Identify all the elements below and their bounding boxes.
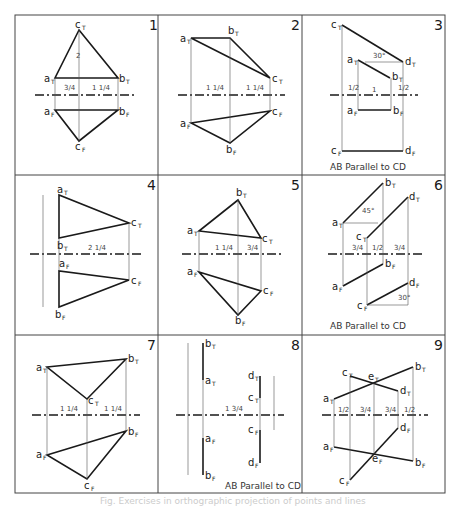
svg-text:a: a bbox=[347, 54, 353, 65]
svg-text:1 3/4: 1 3/4 bbox=[225, 405, 243, 413]
svg-text:1 1/4: 1 1/4 bbox=[206, 84, 224, 92]
svg-text:T: T bbox=[278, 78, 283, 85]
svg-text:T: T bbox=[186, 38, 191, 45]
svg-text:c: c bbox=[131, 275, 137, 286]
svg-text:F: F bbox=[194, 271, 198, 278]
svg-text:F: F bbox=[242, 320, 246, 327]
svg-text:30°: 30° bbox=[373, 52, 385, 60]
svg-text:c: c bbox=[84, 480, 90, 491]
svg-text:c: c bbox=[356, 231, 362, 242]
svg-text:F: F bbox=[270, 290, 274, 297]
svg-text:a: a bbox=[332, 281, 338, 292]
svg-text:d: d bbox=[400, 385, 406, 396]
svg-text:a: a bbox=[36, 449, 42, 460]
svg-text:3/4: 3/4 bbox=[385, 406, 397, 414]
svg-text:F: F bbox=[255, 462, 259, 469]
svg-text:T: T bbox=[421, 366, 426, 373]
panel-number-6: 6 bbox=[434, 177, 443, 193]
svg-text:c: c bbox=[88, 395, 94, 406]
svg-text:b: b bbox=[393, 105, 399, 116]
svg-text:3/4: 3/4 bbox=[394, 244, 406, 252]
svg-text:T: T bbox=[254, 397, 259, 404]
svg-text:b: b bbox=[55, 309, 61, 320]
svg-text:c: c bbox=[248, 392, 254, 403]
svg-text:a: a bbox=[347, 105, 353, 116]
svg-text:b: b bbox=[415, 361, 421, 372]
svg-text:d: d bbox=[405, 145, 411, 156]
svg-text:3/4: 3/4 bbox=[360, 406, 372, 414]
svg-text:a: a bbox=[44, 106, 50, 117]
svg-text:a: a bbox=[205, 433, 211, 444]
svg-text:F: F bbox=[135, 431, 139, 438]
svg-text:e: e bbox=[372, 453, 378, 464]
svg-text:F: F bbox=[407, 427, 411, 434]
svg-text:a: a bbox=[205, 375, 211, 386]
svg-text:F: F bbox=[279, 111, 283, 118]
svg-text:T: T bbox=[137, 222, 142, 229]
svg-text:b: b bbox=[128, 426, 134, 437]
svg-text:T: T bbox=[94, 400, 99, 407]
panel-5: bT aT cT aF cF bF 1 1/4 3/4 bbox=[182, 187, 282, 327]
svg-text:c: c bbox=[331, 145, 337, 156]
svg-text:e: e bbox=[368, 371, 374, 382]
panel-number-4: 4 bbox=[147, 177, 156, 193]
svg-text:b: b bbox=[128, 353, 134, 364]
svg-text:c: c bbox=[263, 285, 269, 296]
svg-text:a: a bbox=[323, 441, 329, 452]
svg-text:3/4: 3/4 bbox=[247, 244, 259, 252]
svg-text:F: F bbox=[392, 263, 396, 270]
svg-text:1 1/4: 1 1/4 bbox=[246, 84, 264, 92]
svg-text:T: T bbox=[242, 192, 247, 199]
svg-text:d: d bbox=[400, 422, 406, 433]
svg-text:F: F bbox=[91, 485, 95, 492]
svg-text:b: b bbox=[57, 240, 63, 251]
svg-text:b: b bbox=[235, 315, 241, 326]
svg-text:T: T bbox=[254, 375, 259, 382]
svg-text:1/2: 1/2 bbox=[398, 84, 409, 92]
svg-text:a: a bbox=[59, 258, 65, 269]
panel-2: aT bT cT cF aF bF 1 1/4 1 1/4 bbox=[178, 25, 285, 156]
svg-text:T: T bbox=[406, 390, 411, 397]
svg-text:b: b bbox=[228, 25, 234, 36]
svg-text:b: b bbox=[226, 144, 232, 155]
panel-1: cT aT bT aF bF cF 2 3/4 1 1/4 bbox=[35, 19, 137, 153]
svg-text:c: c bbox=[272, 106, 278, 117]
svg-text:a: a bbox=[180, 118, 186, 129]
svg-text:c: c bbox=[357, 300, 363, 311]
svg-text:F: F bbox=[82, 146, 86, 153]
svg-text:1/2: 1/2 bbox=[348, 84, 359, 92]
svg-text:F: F bbox=[138, 280, 142, 287]
svg-text:F: F bbox=[338, 150, 342, 157]
svg-text:c: c bbox=[342, 367, 348, 378]
svg-text:a: a bbox=[332, 217, 338, 228]
panel-number-1: 1 bbox=[149, 17, 158, 33]
panel-numbers: 1 2 3 4 5 6 7 8 9 bbox=[147, 17, 443, 353]
svg-text:b: b bbox=[385, 258, 391, 269]
svg-text:T: T bbox=[193, 230, 198, 237]
caption-ab-parallel-cd: AB Parallel to CD bbox=[225, 481, 301, 491]
svg-text:1 1/4: 1 1/4 bbox=[92, 84, 110, 92]
svg-text:d: d bbox=[248, 370, 254, 381]
svg-text:b: b bbox=[119, 106, 125, 117]
svg-text:c: c bbox=[75, 141, 81, 152]
panel-number-9: 9 bbox=[434, 337, 443, 353]
svg-text:d: d bbox=[409, 191, 415, 202]
svg-text:1/2: 1/2 bbox=[404, 406, 415, 414]
svg-text:c: c bbox=[272, 73, 278, 84]
svg-text:F: F bbox=[400, 110, 404, 117]
svg-text:3/4: 3/4 bbox=[352, 244, 364, 252]
svg-text:3/4: 3/4 bbox=[64, 84, 76, 92]
panel-number-5: 5 bbox=[291, 177, 300, 193]
svg-text:F: F bbox=[364, 305, 368, 312]
svg-text:c: c bbox=[262, 233, 268, 244]
svg-text:T: T bbox=[234, 30, 239, 37]
svg-text:F: F bbox=[233, 149, 237, 156]
svg-text:c: c bbox=[248, 424, 254, 435]
svg-text:c: c bbox=[339, 475, 345, 486]
svg-text:45°: 45° bbox=[362, 207, 374, 215]
projection-exercise-sheet: 1 2 3 4 5 6 7 8 9 cT aT bT aF bF cF 2 3/… bbox=[0, 0, 460, 507]
svg-text:T: T bbox=[81, 24, 86, 31]
svg-text:d: d bbox=[409, 277, 415, 288]
svg-text:F: F bbox=[255, 429, 259, 436]
svg-text:b: b bbox=[236, 187, 242, 198]
